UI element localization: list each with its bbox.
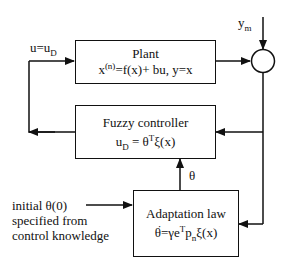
plant-title: Plant (76, 46, 215, 62)
summing-junction (252, 50, 275, 73)
reference-label: ym (238, 15, 252, 30)
plant-block: Plant x(n)=f(x)+ bu, y=x (75, 40, 216, 84)
fuzzy-controller-title: Fuzzy controller (76, 115, 215, 131)
control-loop-line (29, 61, 75, 132)
theta-label: θ (189, 168, 195, 183)
plant-equation: x(n)=f(x)+ bu, y=x (76, 62, 215, 78)
initial-theta-note: initial θ(0) specified from control know… (12, 198, 109, 243)
adaptation-law-block: Adaptation law θ·=γeTpnξ(x) (133, 190, 239, 257)
adaptation-law-equation: θ·=γeTpnξ(x) (134, 225, 238, 241)
adaptation-law-title: Adaptation law (134, 206, 238, 222)
control-input-label: u=uD (30, 40, 57, 55)
fuzzy-controller-block: Fuzzy controller uD = θTξ(x) (75, 105, 216, 159)
fuzzy-controller-equation: uD = θTξ(x) (76, 134, 215, 150)
